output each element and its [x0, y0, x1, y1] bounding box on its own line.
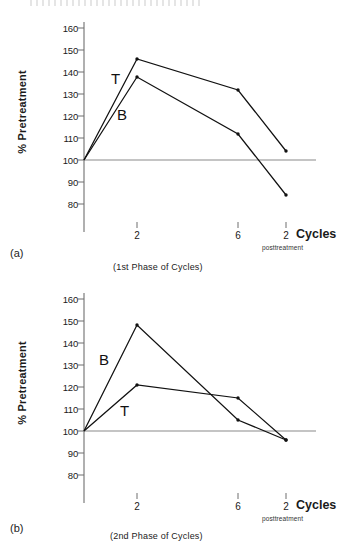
chart-svg-b — [0, 285, 346, 525]
plot-area-b: % Pretreatment 160 150 140 130 120 110 1… — [0, 285, 346, 525]
series-label-b-a: B — [117, 106, 127, 123]
plot-area-a: % Pretreatment 160 150 140 130 120 110 1… — [0, 14, 346, 254]
panel-tag-a: (a) — [10, 247, 23, 259]
x-axis-title-a: Cycles — [296, 227, 336, 241]
figure-page: % Pretreatment 160 150 140 130 120 110 1… — [0, 0, 346, 551]
series-line-b-b — [84, 325, 286, 440]
x-tick-label-6-b: 6 — [228, 501, 248, 512]
series-label-t-a: T — [111, 70, 120, 87]
series-line-t-b — [84, 385, 286, 440]
data-point-t-b — [284, 438, 287, 441]
x-axis-title-b: Cycles — [296, 498, 336, 512]
data-point-b-a — [135, 75, 138, 78]
data-point-t-a — [236, 88, 239, 91]
series-label-t-b: T — [120, 402, 129, 419]
posttreatment-label-a: posttreatment — [262, 244, 303, 251]
x-tick-label-2-a: 2 — [127, 230, 147, 241]
data-point-b-b — [236, 418, 239, 421]
x-tick-label-6-a: 6 — [228, 230, 248, 241]
x-tick-label-post-a: 2 — [276, 230, 296, 241]
panel-caption-a: (1st Phase of Cycles) — [113, 262, 203, 272]
data-point-t-a — [284, 149, 287, 152]
cropped-header-text — [30, 0, 200, 6]
data-point-b-b — [135, 323, 138, 326]
posttreatment-label-b: posttreatment — [262, 515, 303, 522]
panel-tag-b: (b) — [10, 522, 23, 534]
data-point-t-b — [236, 396, 239, 399]
data-point-b-a — [236, 132, 239, 135]
panel-caption-b: (2nd Phase of Cycles) — [110, 531, 203, 541]
chart-panel-b: % Pretreatment 160 150 140 130 120 110 1… — [0, 285, 346, 551]
series-line-b-a — [84, 77, 286, 195]
series-label-b-b: B — [99, 351, 109, 368]
data-point-b-a — [284, 193, 287, 196]
x-tick-label-post-b: 2 — [276, 501, 296, 512]
data-point-t-a — [135, 57, 138, 60]
x-tick-label-2-b: 2 — [127, 501, 147, 512]
data-point-t-b — [135, 383, 138, 386]
chart-svg-a — [0, 14, 346, 254]
chart-panel-a: % Pretreatment 160 150 140 130 120 110 1… — [0, 14, 346, 280]
